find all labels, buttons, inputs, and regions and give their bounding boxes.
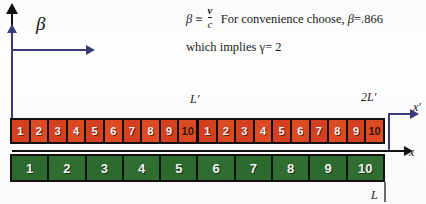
beta-axis-label: β: [36, 13, 45, 35]
ruler-cell-number: 8: [287, 161, 294, 176]
ruler-cell: 1: [12, 156, 49, 180]
rest-length-label: L: [371, 188, 378, 203]
ruler-cell: 3: [49, 120, 68, 142]
ruler-cell: 2: [31, 120, 50, 142]
ruler-cell: 4: [124, 156, 161, 180]
beta-horizontal-arrow-line: [12, 49, 90, 51]
ruler-cell-number: 8: [334, 125, 340, 137]
ruler-cell: 5: [161, 156, 198, 180]
beta-vertical-axis: [11, 30, 13, 130]
ruler-cell: 1: [199, 120, 218, 142]
ruler-cell-number: 3: [54, 125, 60, 137]
ruler-cell: 1: [12, 120, 31, 142]
ruler-cell: 10: [366, 120, 383, 142]
ruler-cell: 3: [236, 120, 255, 142]
ruler-cell: 6: [292, 120, 311, 142]
beta-value: =.866: [354, 12, 383, 26]
x-prime-axis-label: x′: [413, 100, 421, 115]
implies-prefix: which implies: [186, 40, 256, 54]
ruler-cell-number: 10: [368, 125, 380, 137]
identity-symbol: ≡: [195, 12, 202, 26]
ruler-cell: 3: [87, 156, 124, 180]
beta-symbol: β: [186, 12, 192, 26]
ruler-cell-number: 7: [250, 161, 257, 176]
ruler-cell: 10: [348, 156, 383, 180]
ruler-cell-number: 10: [358, 161, 372, 176]
ruler-cell: 9: [161, 120, 180, 142]
ruler-cell: 7: [311, 120, 330, 142]
ruler-cell-number: 3: [241, 125, 247, 137]
x-axis-baseline: [12, 150, 388, 152]
fraction-numerator: v: [208, 5, 213, 16]
ruler-cell: 7: [236, 156, 273, 180]
ruler-cell-number: 4: [260, 125, 266, 137]
ruler-cell: 6: [198, 156, 235, 180]
ruler-cell: 4: [255, 120, 274, 142]
ruler-cell-number: 6: [110, 125, 116, 137]
ruler-cell: 2: [49, 156, 86, 180]
ruler-cell: 4: [68, 120, 87, 142]
beta-definition-formula: β ≡ v c For convenience choose, β=.866: [186, 5, 383, 30]
ruler-cell-number: 5: [279, 125, 285, 137]
ruler-cell-number: 8: [147, 125, 153, 137]
ruler-cell: 5: [273, 120, 292, 142]
ruler-cell-number: 1: [26, 161, 33, 176]
convenience-sentence: For convenience choose,: [221, 12, 345, 26]
ruler-cell-number: 3: [101, 161, 108, 176]
ruler-cell: 10: [179, 120, 199, 142]
ruler-cell: 9: [348, 120, 367, 142]
slide-canvas: β β ≡ v c For convenience choose, β=.866…: [0, 0, 426, 204]
ruler-cell: 8: [142, 120, 161, 142]
length-full-label: 2L′: [361, 90, 376, 105]
ruler-cell: 8: [273, 156, 310, 180]
x-axis-label: x: [409, 145, 414, 160]
length-half-label: L′: [190, 92, 199, 107]
ruler-cell-number: 5: [175, 161, 182, 176]
ruler-cell: 5: [86, 120, 105, 142]
rest-ruler-strip: 12345678910: [10, 154, 385, 182]
gamma-implication-line: which implies γ= 2: [186, 40, 282, 55]
ruler-cell-number: 2: [63, 161, 70, 176]
gamma-value: = 2: [265, 40, 281, 54]
ruler-cell-number: 4: [138, 161, 145, 176]
ruler-cell-number: 9: [166, 125, 172, 137]
ruler-cell-number: 5: [92, 125, 98, 137]
ruler-cell-number: 4: [73, 125, 79, 137]
beta-horizontal-arrowhead-icon: [86, 45, 95, 55]
ruler-cell: 9: [310, 156, 347, 180]
ruler-cell: 8: [329, 120, 348, 142]
rest-length-drop-line: [384, 182, 386, 202]
ruler-cell-number: 9: [324, 161, 331, 176]
ruler-cell-number: 1: [17, 125, 23, 137]
ruler-cell: 6: [105, 120, 124, 142]
ruler-cell-number: 1: [204, 125, 210, 137]
moving-ruler-strip: 1234567891012345678910: [10, 118, 385, 144]
ruler-cell-number: 6: [213, 161, 220, 176]
ruler-cell-number: 9: [353, 125, 359, 137]
ruler-cell-number: 7: [129, 125, 135, 137]
v-over-c-fraction: v c: [208, 5, 213, 30]
ruler-cell-number: 10: [182, 125, 194, 137]
x-prime-axis-vertical-tick: [388, 113, 390, 151]
ruler-cell-number: 7: [316, 125, 322, 137]
ruler-cell-number: 2: [36, 125, 42, 137]
ruler-cell: 7: [124, 120, 143, 142]
fraction-denominator: c: [208, 19, 213, 30]
ruler-cell-number: 2: [223, 125, 229, 137]
ruler-cell-number: 6: [297, 125, 303, 137]
ruler-cell: 2: [218, 120, 237, 142]
